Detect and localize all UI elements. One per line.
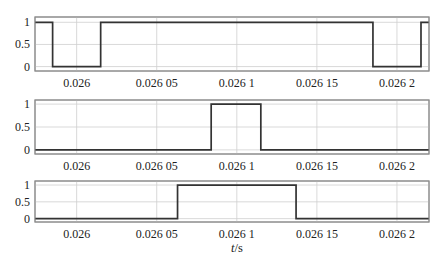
x-tick-label: 0.026 05 (136, 76, 178, 90)
x-tick-label: 0.026 15 (296, 76, 338, 90)
y-tick-label: 0 (24, 212, 30, 226)
x-tick-label: 0.026 2 (379, 159, 415, 173)
x-tick-label: 0.026 2 (379, 227, 415, 241)
x-tick-label: 0.026 1 (219, 76, 255, 90)
x-axis-label-unit: /s (235, 241, 243, 255)
subplot-3: 0.0260.026 050.026 10.026 150.026 200.51 (15, 178, 429, 240)
x-axis-label: t/s (231, 241, 243, 255)
axes-frame (35, 17, 429, 71)
x-tick-label: 0.026 15 (296, 159, 338, 173)
y-tick-label: 0.5 (15, 120, 30, 134)
x-tick-label: 0.026 15 (296, 227, 338, 241)
y-tick-label: 1 (24, 15, 30, 29)
y-tick-label: 0 (24, 143, 30, 157)
x-tick-label: 0.026 (63, 76, 90, 90)
y-tick-label: 1 (24, 178, 30, 192)
x-tick-label: 0.026 1 (219, 159, 255, 173)
y-tick-label: 1 (24, 97, 30, 111)
subplot-2: 0.0260.026 050.026 10.026 150.026 200.51 (15, 97, 429, 172)
x-tick-label: 0.026 (63, 227, 90, 241)
y-tick-label: 0.5 (15, 37, 30, 51)
y-tick-label: 0.5 (15, 195, 30, 209)
x-tick-label: 0.026 05 (136, 227, 178, 241)
subplot-1: 0.0260.026 050.026 10.026 150.026 200.51 (15, 15, 429, 89)
x-tick-label: 0.026 05 (136, 159, 178, 173)
x-tick-label: 0.026 (63, 159, 90, 173)
x-tick-label: 0.026 1 (219, 227, 255, 241)
subplots: 0.0260.026 050.026 10.026 150.026 200.51… (15, 15, 429, 240)
figure: 0.0260.026 050.026 10.026 150.026 200.51… (0, 0, 447, 265)
x-tick-label: 0.026 2 (379, 76, 415, 90)
y-tick-label: 0 (24, 60, 30, 74)
